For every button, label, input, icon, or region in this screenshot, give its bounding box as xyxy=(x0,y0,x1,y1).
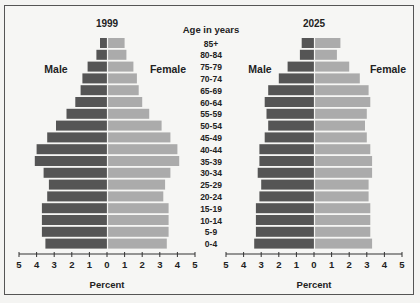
bar-female-35-39 xyxy=(315,156,372,166)
bar-male-5-9 xyxy=(256,227,314,237)
bar-male-0-4 xyxy=(45,239,107,249)
age-label: 65-69 xyxy=(200,86,222,96)
age-label: 0-4 xyxy=(205,239,218,249)
age-label: 20-24 xyxy=(200,192,222,202)
bar-male-0-4 xyxy=(254,239,314,249)
x-tick-label: 3 xyxy=(157,259,162,270)
bar-female-80-84 xyxy=(108,50,126,60)
bar-female-20-24 xyxy=(108,191,163,201)
x-tick-label: 4 xyxy=(241,259,247,270)
bar-male-75-79 xyxy=(288,62,314,72)
bar-male-15-19 xyxy=(42,203,107,213)
bar-male-55-59 xyxy=(267,109,315,119)
age-label: 50-54 xyxy=(200,121,222,131)
bar-male-65-69 xyxy=(268,85,314,95)
bar-male-35-39 xyxy=(259,156,314,166)
x-tick-label: 1 xyxy=(329,259,335,270)
age-label: 85+ xyxy=(204,39,218,49)
age-label: 25-29 xyxy=(200,180,222,190)
bar-female-5-9 xyxy=(108,227,169,237)
x-tick-label: 4 xyxy=(175,259,181,270)
bar-female-60-64 xyxy=(315,97,370,107)
age-label: 80-84 xyxy=(200,50,222,60)
x-tick-label: 2 xyxy=(276,259,281,270)
bar-female-65-69 xyxy=(108,85,139,95)
x-tick-label: 5 xyxy=(16,259,22,270)
bar-male-80-84 xyxy=(96,50,107,60)
age-label: 35-39 xyxy=(200,157,222,167)
xlabel-2025: Percent xyxy=(297,279,333,290)
legend-female-2025: Female xyxy=(370,63,406,75)
bar-female-25-29 xyxy=(108,180,165,190)
bar-female-65-69 xyxy=(315,85,369,95)
x-tick-label: 5 xyxy=(192,259,198,270)
x-tick-label: 3 xyxy=(52,259,57,270)
pyramid-2025: 2025 Male Female Percent 54321012345 xyxy=(223,18,406,290)
bar-male-30-34 xyxy=(44,168,107,178)
bar-male-20-24 xyxy=(47,191,107,201)
chart-title-1999: 1999 xyxy=(96,18,119,29)
bar-male-10-14 xyxy=(42,215,107,225)
population-pyramids-svg: 1999 Male Female Percent 54321012345 202… xyxy=(0,0,420,303)
age-label: 15-19 xyxy=(200,204,222,214)
bar-female-25-29 xyxy=(315,180,369,190)
bar-female-50-54 xyxy=(108,121,162,131)
bar-male-40-44 xyxy=(259,144,314,154)
bar-female-85+ xyxy=(315,38,340,48)
age-label: 10-14 xyxy=(200,216,222,226)
bar-male-40-44 xyxy=(37,144,107,154)
x-tick-label: 3 xyxy=(364,259,369,270)
bar-male-20-24 xyxy=(259,191,314,201)
bar-male-55-59 xyxy=(67,109,108,119)
bar-female-10-14 xyxy=(108,215,169,225)
bar-male-80-84 xyxy=(300,50,314,60)
bar-male-70-74 xyxy=(279,73,314,83)
bar-male-50-54 xyxy=(268,121,314,131)
age-axis: Age in years 85+80-8475-7970-7465-6960-6… xyxy=(183,24,240,249)
bar-female-75-79 xyxy=(108,62,133,72)
bar-female-80-84 xyxy=(315,50,337,60)
age-axis-title: Age in years xyxy=(183,24,240,35)
legend-female-1999: Female xyxy=(150,63,186,75)
x-tick-label: 2 xyxy=(69,259,74,270)
bar-female-0-4 xyxy=(315,239,372,249)
age-label: 60-64 xyxy=(200,98,222,108)
age-label: 30-34 xyxy=(200,168,222,178)
x-tick-label: 1 xyxy=(122,259,128,270)
bar-female-30-34 xyxy=(315,168,372,178)
bar-male-65-69 xyxy=(81,85,107,95)
x-tick-label: 4 xyxy=(382,259,388,270)
bar-female-55-59 xyxy=(108,109,149,119)
age-label: 5-9 xyxy=(205,227,218,237)
xlabel-1999: Percent xyxy=(90,279,126,290)
x-tick-label: 4 xyxy=(34,259,40,270)
x-tick-label: 0 xyxy=(311,259,316,270)
bar-female-70-74 xyxy=(315,73,360,83)
bar-male-60-64 xyxy=(265,97,314,107)
x-tick-label: 5 xyxy=(223,259,229,270)
x-tick-label: 0 xyxy=(104,259,109,270)
bar-female-20-24 xyxy=(315,191,369,201)
legend-male-2025: Male xyxy=(248,63,272,75)
age-label: 75-79 xyxy=(200,62,222,72)
bar-female-85+ xyxy=(108,38,125,48)
bar-male-25-29 xyxy=(49,180,107,190)
age-label: 40-44 xyxy=(200,145,222,155)
x-tick-label: 1 xyxy=(87,259,93,270)
legend-male-1999: Male xyxy=(44,63,68,75)
bar-male-30-34 xyxy=(258,168,314,178)
bar-female-35-39 xyxy=(108,156,179,166)
age-label: 55-59 xyxy=(200,109,222,119)
bar-female-15-19 xyxy=(315,203,370,213)
bar-male-85+ xyxy=(100,38,107,48)
bar-female-5-9 xyxy=(315,227,370,237)
bar-female-30-34 xyxy=(108,168,170,178)
x-tick-label: 2 xyxy=(347,259,352,270)
bar-female-45-49 xyxy=(315,132,367,142)
bar-male-75-79 xyxy=(88,62,107,72)
age-label: 70-74 xyxy=(200,74,222,84)
chart-title-2025: 2025 xyxy=(303,18,326,29)
bar-male-70-74 xyxy=(82,73,107,83)
bar-male-60-64 xyxy=(75,97,107,107)
x-tick-label: 2 xyxy=(140,259,145,270)
